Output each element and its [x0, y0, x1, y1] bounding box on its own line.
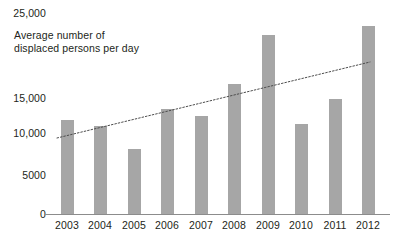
x-tick-label-2005: 2005	[117, 219, 151, 231]
x-tick-label-2003: 2003	[50, 219, 84, 231]
chart-container: Average number of displaced persons per …	[0, 0, 394, 244]
x-axis-line	[48, 214, 390, 215]
x-tick-label-2011: 2011	[318, 219, 352, 231]
trendline	[0, 0, 394, 244]
x-tick-label-2012: 2012	[351, 219, 385, 231]
trendline-path	[57, 62, 370, 138]
x-tick-label-2009: 2009	[251, 219, 285, 231]
x-tick-label-2010: 2010	[284, 219, 318, 231]
x-tick-label-2004: 2004	[83, 219, 117, 231]
x-tick-label-2006: 2006	[150, 219, 184, 231]
y-axis-zero-tick	[44, 214, 49, 215]
x-tick-label-2007: 2007	[184, 219, 218, 231]
x-tick-label-2008: 2008	[217, 219, 251, 231]
